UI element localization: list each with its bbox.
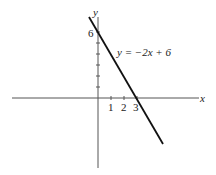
- y-axis-label: y: [92, 6, 98, 18]
- x-tick-label-2: 2: [121, 101, 127, 113]
- x-tick-label-3: 3: [133, 101, 139, 113]
- line-series: [89, 17, 163, 144]
- y-tick-label-6: 6: [88, 27, 94, 39]
- x-tick-label-1: 1: [108, 101, 114, 113]
- x-axis-label: x: [199, 92, 205, 104]
- equation-label: y = −2x + 6: [116, 46, 172, 58]
- coordinate-plot: y x 6 y = −2x + 6 1 2 3: [0, 0, 216, 175]
